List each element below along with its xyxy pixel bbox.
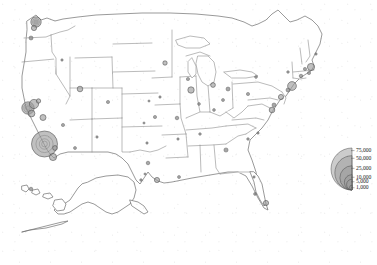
symbol-circle [222, 99, 225, 102]
symbol-circle [159, 96, 161, 98]
symbol-phoenix-az [74, 147, 77, 150]
symbol-circle [254, 193, 257, 196]
symbol-las-vegas-nv [61, 123, 64, 126]
symbol-circle [29, 36, 33, 40]
symbol-memphis-tn [177, 138, 179, 140]
symbol-san-diego-ca [49, 153, 56, 160]
symbol-los-angeles-ca [32, 131, 58, 157]
symbol-circle [74, 147, 77, 150]
hawaii-oahu [32, 189, 40, 195]
symbol-oklahoma-city-ok [146, 142, 148, 144]
symbol-austin-tx [144, 173, 146, 175]
symbol-portland-me [315, 53, 317, 55]
symbol-circle [175, 116, 179, 120]
symbol-circle [146, 142, 148, 144]
symbol-indianapolis-in [198, 103, 201, 106]
symbol-circle [263, 200, 268, 205]
symbol-circle [144, 173, 146, 175]
symbol-riverside-ca [53, 146, 58, 151]
symbol-circle [211, 83, 216, 88]
symbol-circle [278, 94, 283, 99]
symbol-charlotte-nc [247, 138, 250, 141]
symbol-raleigh-nc [257, 132, 259, 134]
hawaii-kauai [22, 185, 29, 192]
symbol-pittsburgh-pa [246, 92, 249, 95]
symbol-circle [28, 110, 35, 117]
symbol-circle [198, 103, 201, 106]
alaska-panhandle [130, 200, 148, 214]
symbol-atlanta-ga [224, 148, 228, 152]
symbol-circle [146, 161, 150, 165]
symbol-circle [178, 176, 181, 179]
alaska-aleutians [22, 221, 68, 232]
symbol-circle [32, 131, 58, 157]
symbol-circle [299, 74, 303, 78]
symbol-nashville-tn [199, 133, 202, 136]
symbol-circle [226, 87, 230, 91]
symbol-new-orleans-la [178, 176, 181, 179]
symbol-milwaukee-wi [186, 77, 189, 80]
symbol-circle [61, 59, 63, 61]
map-canvas: 75,00050,00025,00010,0005,0001,000 [0, 0, 377, 265]
symbol-honolulu-hi [29, 187, 33, 191]
symbol-circle [255, 76, 258, 79]
us-proportional-symbol-map: 75,00050,00025,00010,0005,0001,000 [0, 0, 377, 265]
legend-label-1000: 1,000 [356, 184, 369, 190]
symbol-circle [272, 103, 276, 107]
symbol-circle [246, 92, 249, 95]
symbol-circle [154, 177, 159, 182]
symbol-circle [287, 71, 290, 74]
symbol-newark-nj [286, 88, 290, 92]
map-legend: 75,00050,00025,00010,0005,0001,000 [331, 147, 372, 190]
symbol-miami-fl [263, 200, 268, 205]
symbol-salt-lake-city-ut [77, 86, 83, 92]
symbol-houston-tx [154, 177, 159, 182]
symbol-cleveland-oh [226, 87, 230, 91]
symbol-circle [31, 25, 36, 30]
symbol-circle [106, 100, 109, 103]
symbol-jacksonville-fl [253, 176, 255, 178]
legend-label-75000: 75,000 [356, 147, 372, 153]
symbol-san-jose-ca [28, 110, 35, 117]
symbol-circle [163, 61, 167, 65]
symbol-circle [257, 132, 259, 134]
legend-label-25000: 25,000 [356, 165, 372, 171]
symbol-albany-ny [287, 71, 290, 74]
symbol-circle [213, 109, 216, 112]
legend-label-50000: 50,000 [356, 155, 372, 161]
symbol-omaha-ne [148, 100, 150, 102]
symbol-columbus-oh [222, 99, 225, 102]
symbol-circle [36, 99, 40, 103]
symbol-des-moines-ia [159, 96, 161, 98]
symbol-tacoma-wa [31, 25, 36, 30]
symbol-cincinnati-oh [213, 109, 216, 112]
florida-outline [250, 172, 266, 206]
hawaii-maui [43, 193, 53, 199]
symbol-wichita-ks [143, 122, 145, 124]
symbol-circle [253, 176, 255, 178]
symbol-circle [143, 122, 145, 124]
symbol-philadelphia-pa [278, 94, 283, 99]
symbol-hartford-ct [299, 74, 303, 78]
symbol-circle [315, 53, 317, 55]
symbol-tampa-fl [254, 193, 257, 196]
symbol-circle [148, 100, 150, 102]
symbol-detroit-mi [211, 83, 216, 88]
symbol-denver-co [106, 100, 109, 103]
symbol-portland-or [29, 36, 33, 40]
symbol-worcester-ma [303, 67, 306, 70]
symbol-circle [307, 63, 314, 70]
symbol-circle [29, 187, 33, 191]
symbol-dallas-tx [146, 161, 150, 165]
symbol-circle [188, 87, 194, 93]
symbol-circle [186, 77, 189, 80]
symbol-circle [61, 123, 64, 126]
symbol-chicago-il [188, 87, 194, 93]
symbol-sacramento-ca [36, 99, 40, 103]
symbol-circle [177, 138, 179, 140]
symbol-minneapolis-mn [163, 61, 167, 65]
symbol-fresno-ca [40, 115, 46, 121]
state-boundaries [22, 10, 322, 232]
symbol-circle [307, 71, 310, 74]
symbol-san-antonio-tx [140, 179, 143, 182]
